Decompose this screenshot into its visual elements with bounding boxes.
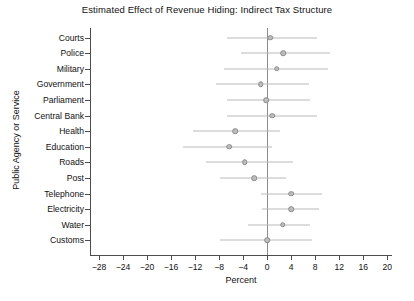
x-axis-tick-mark (243, 256, 244, 260)
y-axis-title: Public Agency or Service (11, 50, 21, 230)
y-axis-tick-label: Military (57, 64, 84, 74)
y-axis-line (90, 28, 91, 255)
y-axis-tick-mark (85, 38, 90, 39)
y-axis-tick-mark (85, 162, 90, 163)
y-axis-tick-mark (85, 194, 90, 195)
y-axis-tick-label: Customs (50, 235, 84, 245)
x-axis-tick-label: 0 (265, 262, 270, 272)
chart-container: Estimated Effect of Revenue Hiding: Indi… (0, 0, 414, 301)
y-axis-tick-mark (85, 240, 90, 241)
y-axis-tick-label: Police (61, 48, 84, 58)
data-point-marker (232, 128, 238, 134)
data-point-marker (269, 113, 275, 119)
chart-title: Estimated Effect of Revenue Hiding: Indi… (0, 4, 414, 15)
data-point-marker (251, 175, 257, 181)
y-axis-tick-mark (85, 131, 90, 132)
data-point-marker (288, 206, 294, 212)
x-axis-tick-label: −16 (164, 262, 179, 272)
y-axis-tick-label: Government (37, 79, 84, 89)
y-axis-tick-mark (85, 225, 90, 226)
y-axis-tick-label: Health (59, 126, 84, 136)
y-axis-tick-label: Courts (59, 33, 84, 43)
data-point-marker (281, 50, 287, 56)
x-axis-tick-mark (171, 256, 172, 260)
x-axis-tick-label: −8 (214, 262, 224, 272)
zero-reference-line (267, 28, 268, 255)
data-point-marker (274, 66, 280, 72)
y-axis-tick-mark (85, 116, 90, 117)
y-axis-tick-mark (85, 209, 90, 210)
y-axis-tick-label: Telephone (44, 189, 84, 199)
x-axis-tick-mark (291, 256, 292, 260)
x-axis-tick-label: −28 (92, 262, 107, 272)
data-point-marker (267, 35, 273, 41)
data-point-marker (242, 160, 248, 166)
x-axis-tick-label: 8 (313, 262, 318, 272)
x-axis-line (90, 255, 392, 256)
confidence-interval-bar (206, 162, 292, 163)
x-axis-tick-mark (147, 256, 148, 260)
x-axis-tick-label: 4 (289, 262, 294, 272)
x-axis-tick-label: 20 (382, 262, 392, 272)
data-point-marker (263, 97, 269, 103)
x-axis-tick-mark (99, 256, 100, 260)
y-axis-tick-mark (85, 69, 90, 70)
y-axis-tick-label: Education (46, 142, 84, 152)
x-axis-tick-label: −12 (188, 262, 203, 272)
y-axis-tick-label: Post (67, 173, 84, 183)
x-axis-tick-mark (339, 256, 340, 260)
x-axis-tick-label: −4 (238, 262, 248, 272)
x-axis-tick-label: −20 (140, 262, 155, 272)
y-axis-tick-mark (85, 178, 90, 179)
x-axis-tick-mark (363, 256, 364, 260)
y-axis-tick-label: Central Bank (34, 111, 84, 121)
y-axis-tick-label: Roads (59, 157, 84, 167)
y-axis-tick-label: Water (61, 220, 84, 230)
data-point-marker (288, 191, 294, 197)
y-axis-tick-label: Parliament (43, 95, 84, 105)
x-axis-tick-mark (315, 256, 316, 260)
x-axis-title: Percent (90, 275, 392, 285)
x-axis-tick-label: 12 (334, 262, 344, 272)
x-axis-tick-mark (387, 256, 388, 260)
y-axis-tick-label: Electricity (47, 204, 84, 214)
x-axis-tick-mark (123, 256, 124, 260)
x-axis-tick-label: 16 (358, 262, 368, 272)
data-point-marker (280, 222, 286, 228)
x-axis-tick-label: −24 (116, 262, 131, 272)
data-point-marker (258, 82, 264, 88)
y-axis-tick-mark (85, 147, 90, 148)
x-axis-tick-mark (195, 256, 196, 260)
x-axis-tick-mark (267, 256, 268, 260)
data-point-marker (264, 238, 270, 244)
y-axis-tick-mark (85, 100, 90, 101)
y-axis-tick-mark (85, 84, 90, 85)
x-axis-tick-mark (219, 256, 220, 260)
y-axis-tick-mark (85, 53, 90, 54)
data-point-marker (226, 144, 232, 150)
